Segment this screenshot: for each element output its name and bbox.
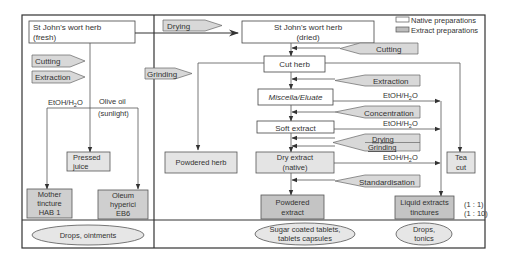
soft-extract-label: Soft extract	[275, 124, 316, 133]
legend: Native preparations Extract preparations	[396, 16, 478, 35]
powdered-extract-line1: Powdered	[276, 198, 310, 207]
process-drying-grinding: Drying Grinding	[333, 134, 420, 152]
use-drops-tonics-line1: Drops,	[413, 225, 435, 234]
pressed-juice-line2: juice	[72, 162, 88, 171]
svg-text:Drying: Drying	[167, 22, 190, 31]
fresh-herb-line1: St John's wort herb	[33, 23, 102, 32]
use-tablets-line2: tablets capsules	[278, 234, 332, 243]
mother-tincture-line1: Mother	[38, 190, 62, 199]
miscella-solvent-label: EtOH/H2O	[383, 91, 418, 101]
dry-extract-line2: (native)	[282, 163, 308, 172]
left-panel: St John's wort herb (fresh) Cutting Extr…	[27, 21, 238, 245]
svg-text:Concentration: Concentration	[364, 109, 414, 118]
svg-text:Grinding: Grinding	[368, 143, 396, 152]
svg-text:Cutting: Cutting	[35, 57, 60, 66]
liquid-extracts-line2: tinctures	[410, 208, 439, 217]
svg-text:Extraction: Extraction	[35, 73, 71, 82]
use-tablets-line1: Sugar coated tablets,	[270, 225, 341, 234]
right-panel: Drying St John's wort herb (dried) Cutti…	[145, 20, 488, 245]
process-extraction-left: Extraction	[32, 71, 85, 83]
process-extraction-right: Extraction	[335, 75, 420, 86]
ratio-1-1: (1 : 1)	[464, 200, 484, 209]
tea-cut-line2: cut	[456, 163, 467, 172]
dried-herb-line1: St John's wort herb	[274, 23, 343, 32]
dried-herb-line2: (dried)	[296, 33, 319, 42]
miscella-label: Miscella/Eluate	[269, 93, 323, 102]
svg-text:Cutting: Cutting	[376, 45, 401, 54]
process-grinding-left: Grinding	[145, 68, 192, 79]
process-standardisation: Standardisation	[335, 175, 420, 187]
process-cutting-right: Cutting	[340, 43, 418, 54]
legend-native-swatch	[396, 17, 409, 22]
oleum-line2: hyperici	[110, 200, 136, 209]
oleum-line3: EB6	[116, 209, 130, 218]
svg-text:Standardisation: Standardisation	[359, 178, 415, 187]
sunlight-label: (sunlight)	[98, 109, 129, 118]
svg-text:Grinding: Grinding	[147, 70, 177, 79]
legend-native-label: Native preparations	[411, 16, 476, 25]
fresh-herb-line2: (fresh)	[33, 33, 56, 42]
mother-tincture-line3: HAB 1	[39, 208, 61, 217]
liquid-extracts-line1: Liquid extracts	[400, 198, 449, 207]
ratio-1-10: (1 : 10)	[464, 209, 488, 218]
cut-to-powdered-herb-line	[198, 63, 264, 150]
powdered-extract-line2: extract	[281, 208, 304, 217]
dry-solvent-label: EtOH/H2O	[383, 153, 418, 163]
oleum-line1: Oleum	[112, 191, 134, 200]
legend-extract-swatch	[396, 27, 409, 32]
use-drops-tonics-line2: tonics	[414, 234, 434, 243]
dry-extract-line1: Dry extract	[277, 153, 314, 162]
process-cutting-left: Cutting	[32, 55, 85, 67]
tea-cut-line1: Tea	[455, 153, 468, 162]
soft-solvent-label: EtOH/H2O	[383, 119, 418, 129]
olive-oil-label: Olive oil	[99, 97, 126, 106]
pressed-juice-line1: Pressed	[73, 153, 101, 162]
use-drops-ointments-label: Drops, ointments	[60, 231, 117, 240]
mother-tincture-line2: tincture	[37, 199, 62, 208]
process-concentration: Concentration	[335, 106, 420, 118]
left-solvent-label: EtOH/H2O	[48, 98, 83, 108]
preparation-flow-diagram: Native preparations Extract preparations…	[0, 0, 508, 269]
process-drying-top: Drying	[163, 20, 222, 31]
svg-text:Extraction: Extraction	[373, 77, 409, 86]
cut-herb-label: Cut herb	[279, 60, 310, 69]
powdered-herb-label: Powdered herb	[176, 158, 227, 167]
legend-extract-label: Extract preparations	[411, 26, 478, 35]
